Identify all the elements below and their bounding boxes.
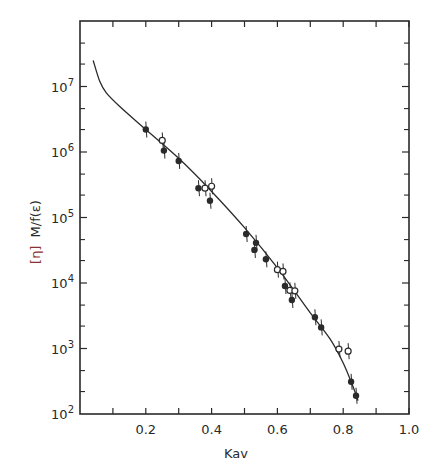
chart: 0.20.40.60.81.0 102103104105106107 Kav [… bbox=[0, 0, 435, 467]
y-axis-title-rest: M/f(ε) bbox=[28, 200, 43, 237]
open-data-point bbox=[292, 283, 298, 299]
filled-data-point bbox=[195, 180, 201, 196]
x-tick-label: 1.0 bbox=[399, 422, 420, 437]
filled-data-point bbox=[263, 251, 269, 267]
x-tick-label: 0.6 bbox=[267, 422, 288, 437]
filled-data-point bbox=[318, 319, 324, 335]
y-tick-label: 103 bbox=[51, 339, 74, 357]
open-data-point bbox=[274, 262, 280, 278]
x-tick-label: 0.4 bbox=[201, 422, 222, 437]
filled-data-point bbox=[243, 226, 249, 242]
fitted-curve bbox=[93, 60, 358, 400]
plot-frame bbox=[80, 21, 409, 414]
y-tick-label: 102 bbox=[51, 404, 74, 422]
data-points bbox=[143, 122, 360, 404]
y-axis-title-bracket: [η] bbox=[28, 246, 43, 264]
y-tick-label: 105 bbox=[51, 208, 74, 226]
x-tick-label: 0.8 bbox=[333, 422, 354, 437]
filled-data-point bbox=[143, 122, 149, 138]
x-axis-title: Kav bbox=[224, 446, 248, 461]
y-axis-ticks: 102103104105106107 bbox=[51, 43, 409, 422]
svg-text:[η] M/f(ε): [η] M/f(ε) bbox=[28, 200, 43, 264]
y-tick-label: 106 bbox=[51, 142, 74, 160]
filled-data-point bbox=[161, 143, 167, 159]
y-axis-title: [η] M/f(ε) bbox=[28, 200, 43, 264]
filled-data-point bbox=[289, 292, 295, 308]
filled-data-point bbox=[176, 153, 182, 169]
filled-data-point bbox=[207, 193, 213, 209]
y-tick-label: 104 bbox=[51, 273, 74, 291]
y-tick-label: 107 bbox=[51, 77, 74, 95]
x-axis-ticks: 0.20.40.60.81.0 bbox=[113, 21, 419, 437]
x-tick-label: 0.2 bbox=[135, 422, 156, 437]
fitted-curve-line bbox=[93, 60, 358, 400]
open-data-point bbox=[345, 343, 351, 359]
